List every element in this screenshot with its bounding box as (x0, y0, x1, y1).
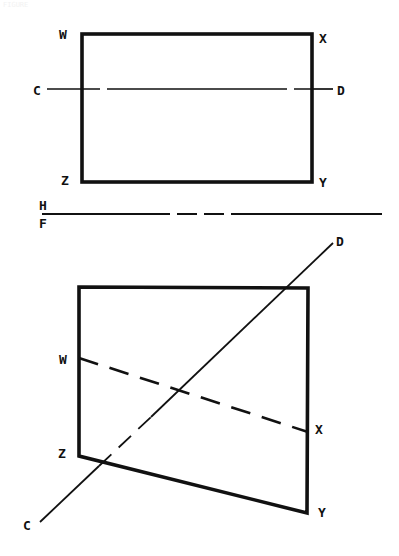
front-view-label-w: W (59, 352, 67, 367)
front-view-label-c: C (23, 518, 31, 533)
top-view-group: W X Y Z C D (33, 27, 345, 190)
fold-label-f: F (39, 216, 47, 231)
drawing-sheet: W X Y Z C D H F W X (0, 0, 399, 556)
front-view-line-cd-lower-solid (40, 466, 99, 522)
top-view-rectangle-wxyz (82, 34, 312, 182)
front-view-label-x: X (315, 422, 323, 437)
front-view-group: W X Y Z C D (23, 234, 344, 533)
top-view-label-c: C (33, 83, 41, 98)
front-view-line-cd-upper-solid (151, 243, 333, 417)
fold-line-group: H F (39, 198, 382, 231)
faint-caption: FIGURE (3, 1, 28, 9)
front-view-label-y: Y (318, 505, 326, 520)
front-view-line-wx-dashed (79, 358, 308, 432)
top-view-label-y: Y (319, 175, 327, 190)
technical-drawing-canvas: W X Y Z C D H F W X (0, 0, 399, 556)
front-view-quadrilateral-wxyz (79, 287, 308, 513)
fold-label-h: H (39, 198, 47, 213)
front-view-label-d: D (336, 234, 344, 249)
top-view-label-w: W (59, 27, 67, 42)
top-view-label-d: D (337, 83, 345, 98)
front-view-line-cd-hidden-dashed (99, 417, 151, 466)
top-view-label-z: Z (61, 173, 69, 188)
front-view-label-z: Z (58, 446, 66, 461)
top-view-label-x: X (319, 31, 327, 46)
